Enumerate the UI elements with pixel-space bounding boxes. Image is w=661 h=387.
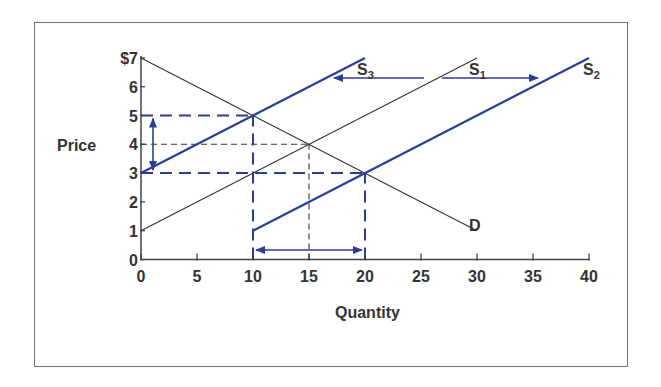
x-tick-label: 40: [580, 268, 598, 285]
x-tick-label: 35: [524, 268, 542, 285]
x-tick-label: 20: [356, 268, 374, 285]
label-d: D: [469, 217, 481, 234]
label-s2: S2: [583, 61, 600, 81]
supply-demand-chart: 05101520253035400123456$7 Price Quantity…: [0, 0, 661, 387]
reference-lines: [141, 116, 365, 260]
x-tick-label: 10: [244, 268, 262, 285]
y-tick-label: 4: [129, 136, 138, 153]
x-tick-label: 25: [412, 268, 430, 285]
y-tick-label: 2: [129, 194, 138, 211]
x-tick-label: 5: [193, 268, 202, 285]
x-tick-label: 15: [300, 268, 318, 285]
y-tick-label: 0: [129, 252, 138, 269]
y-tick-label: 6: [129, 79, 138, 96]
y-tick-label: $7: [120, 50, 138, 67]
x-axis-title: Quantity: [335, 304, 400, 321]
y-tick-label: 3: [129, 165, 138, 182]
y-tick-label: 1: [129, 223, 138, 240]
y-tick-label: 5: [129, 108, 138, 125]
x-tick-label: 0: [137, 268, 146, 285]
x-tick-label: 30: [468, 268, 486, 285]
y-axis-title: Price: [57, 137, 96, 154]
curves: [141, 58, 589, 231]
